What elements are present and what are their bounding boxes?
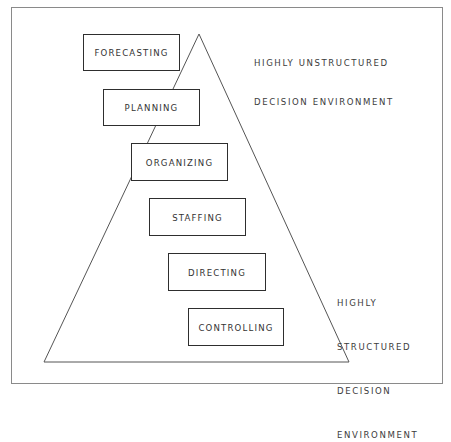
function-box-staffing: STAFFING	[149, 198, 246, 236]
annotation-line: HIGHLY UNSTRUCTURED	[254, 56, 394, 69]
annotation-structured: HIGHLY STRUCTURED DECISION ENVIRONMENT	[337, 267, 418, 442]
annotation-line: DECISION ENVIRONMENT	[254, 95, 394, 108]
function-label: PLANNING	[125, 102, 179, 113]
function-label: STAFFING	[172, 212, 223, 223]
function-box-organizing: ORGANIZING	[131, 143, 228, 181]
annotation-line: DECISION	[337, 384, 418, 399]
function-box-forecasting: FORECASTING	[83, 34, 180, 71]
function-box-planning: PLANNING	[103, 89, 200, 126]
function-label: FORECASTING	[94, 47, 168, 58]
function-label: ORGANIZING	[146, 157, 213, 168]
function-box-directing: DIRECTING	[168, 253, 266, 291]
function-label: DIRECTING	[188, 267, 246, 278]
annotation-line: ENVIRONMENT	[337, 428, 418, 442]
annotation-line: HIGHLY	[337, 296, 418, 311]
function-box-controlling: CONTROLLING	[188, 308, 284, 346]
annotation-line: STRUCTURED	[337, 340, 418, 355]
function-label: CONTROLLING	[198, 322, 273, 333]
annotation-unstructured: HIGHLY UNSTRUCTURED DECISION ENVIRONMENT	[254, 30, 394, 121]
